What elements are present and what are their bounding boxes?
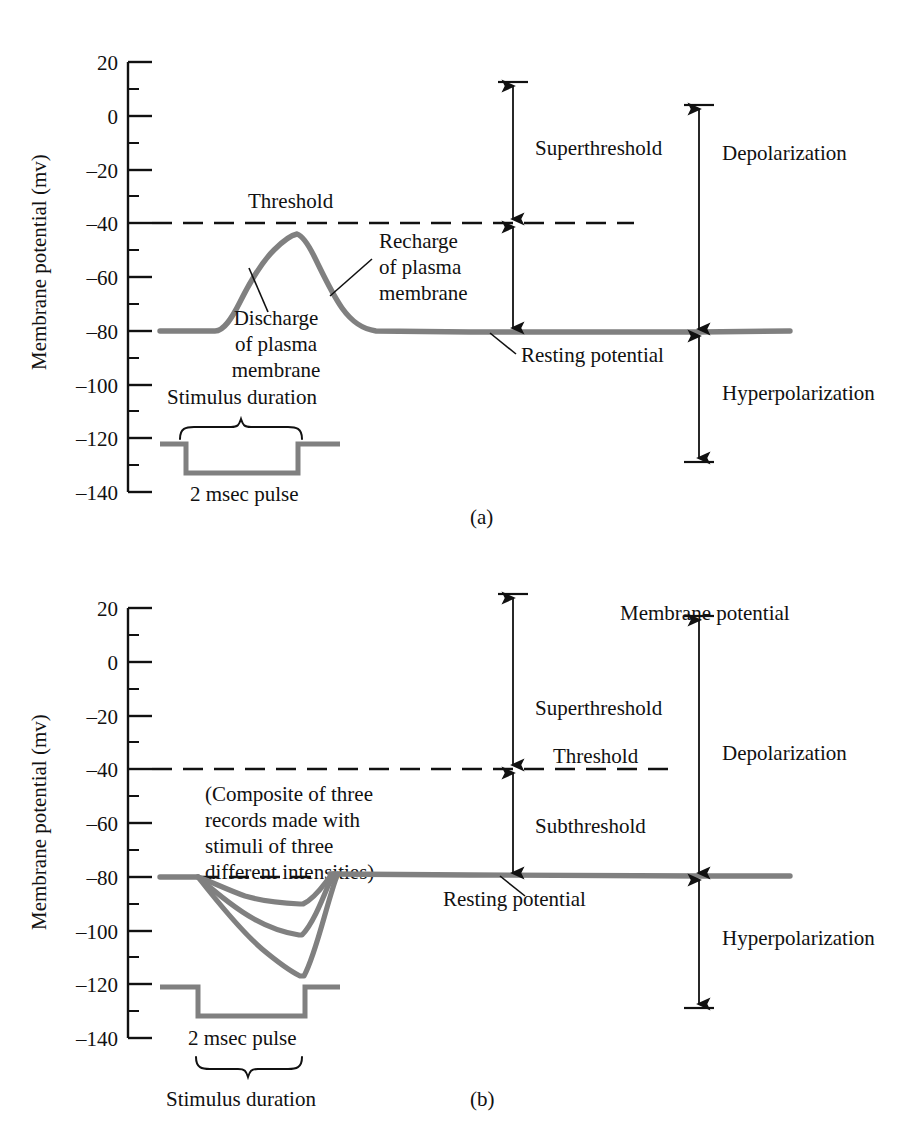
composite-line-2: records made with xyxy=(205,808,361,832)
recharge-line-2: of plasma xyxy=(379,255,462,279)
tick-label: –100 xyxy=(75,374,118,398)
discharge-line-1: Discharge xyxy=(234,306,319,330)
recharge-line-1: Recharge xyxy=(379,229,458,253)
resting-potential-label-b: Resting potential xyxy=(443,887,586,911)
y-axis-major-ticks-b xyxy=(128,608,152,1038)
stimulus-brace-a xyxy=(180,419,302,439)
tick-label: –60 xyxy=(86,812,119,836)
tick-label: –140 xyxy=(75,481,118,505)
tick-label: –40 xyxy=(86,212,119,236)
threshold-label-b: Threshold xyxy=(553,744,639,768)
superthreshold-label-b: Superthreshold xyxy=(535,696,663,720)
y-axis-tick-labels-b: 20 0 –20 –40 –60 –80 –100 –120 –140 xyxy=(75,597,118,1051)
tick-label: 20 xyxy=(97,51,118,75)
composite-line-3: stimuli of three xyxy=(205,834,333,858)
composite-annotation-b: (Composite of three records made with st… xyxy=(205,782,374,884)
panel-label-a: (a) xyxy=(470,505,493,529)
recharge-annotation-a: Recharge of plasma membrane xyxy=(379,229,468,305)
tick-label: –20 xyxy=(86,705,119,729)
tick-label: 0 xyxy=(108,651,119,675)
stimulus-duration-label-b: Stimulus duration xyxy=(166,1087,316,1111)
resting-baseline-right-b xyxy=(330,874,790,876)
recharge-leader-line xyxy=(330,259,372,296)
y-axis-major-ticks-a xyxy=(128,62,152,492)
panel-b: Membrane potential (mv) 20 0 –20 –40 –60… xyxy=(0,560,918,1127)
stimulus-pulse-trace-a xyxy=(160,444,340,473)
superthreshold-label-a: Superthreshold xyxy=(535,136,663,160)
hyperpolarization-label-a: Hyperpolarization xyxy=(722,381,875,405)
recharge-line-3: membrane xyxy=(379,281,468,305)
discharge-line-3: membrane xyxy=(232,358,321,382)
membrane-potential-label-b: Membrane potential xyxy=(620,601,790,625)
axis-title-a: Membrane potential (mv) xyxy=(27,154,51,370)
tick-label: –100 xyxy=(75,920,118,944)
depolarization-label-a: Depolarization xyxy=(722,141,847,165)
y-axis-tick-labels-a: 20 0 –20 –40 –60 –80 –100 –120 –140 xyxy=(75,51,118,505)
tick-label: –120 xyxy=(75,973,118,997)
tick-label: –80 xyxy=(86,320,119,344)
pulse-label-a: 2 msec pulse xyxy=(190,482,298,506)
axis-title-b: Membrane potential (mv) xyxy=(27,714,51,930)
panel-a: Membrane potential (mv) 20 0 –20 –40 –60… xyxy=(0,0,918,560)
hyperpolarization-label-b: Hyperpolarization xyxy=(722,926,875,950)
discharge-annotation-a: Discharge of plasma membrane xyxy=(232,306,321,382)
tick-label: –40 xyxy=(86,758,119,782)
composite-line-1: (Composite of three xyxy=(205,782,373,806)
tick-label: –60 xyxy=(86,266,119,290)
resting-potential-label-a: Resting potential xyxy=(521,343,664,367)
discharge-line-2: of plasma xyxy=(235,332,318,356)
tick-label: –140 xyxy=(75,1027,118,1051)
tick-label: –20 xyxy=(86,159,119,183)
threshold-label-a: Threshold xyxy=(248,189,334,213)
stimulus-duration-label-a: Stimulus duration xyxy=(167,385,317,409)
subthreshold-label-b: Subthreshold xyxy=(535,814,646,838)
panel-label-b: (b) xyxy=(470,1087,495,1111)
tick-label: 0 xyxy=(108,105,119,129)
depolarization-label-b: Depolarization xyxy=(722,741,847,765)
tick-label: 20 xyxy=(97,597,118,621)
tick-label: –120 xyxy=(75,427,118,451)
resting-potential-leader-line-a xyxy=(490,333,516,354)
tick-label: –80 xyxy=(86,866,119,890)
stimulus-brace-b xyxy=(196,1057,302,1077)
membrane-potential-figure: Membrane potential (mv) 20 0 –20 –40 –60… xyxy=(0,0,918,1127)
stimulus-pulse-trace-b xyxy=(160,987,340,1016)
pulse-label-b: 2 msec pulse xyxy=(188,1026,296,1050)
